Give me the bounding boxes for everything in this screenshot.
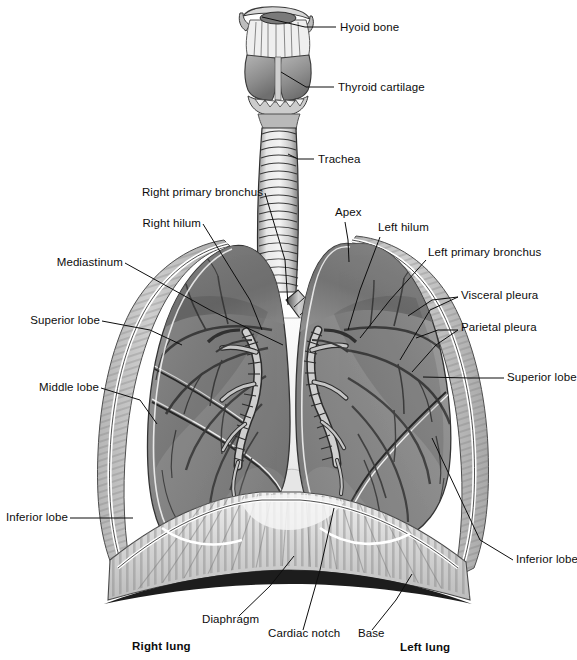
label-inferior-lobe-right: Inferior lobe (6, 512, 68, 524)
label-visceral-pleura: Visceral pleura (461, 290, 538, 302)
label-apex: Apex (335, 207, 362, 219)
label-right-hilum: Right hilum (142, 218, 201, 230)
label-inferior-lobe-left: Inferior lobe (516, 554, 577, 566)
label-thyroid-cartilage: Thyroid cartilage (338, 82, 425, 94)
label-left-hilum: Left hilum (378, 222, 429, 234)
label-cardiac-notch: Cardiac notch (268, 628, 340, 640)
label-right-primary-bronchus: Right primary bronchus (142, 187, 263, 199)
label-middle-lobe: Middle lobe (39, 382, 99, 394)
label-parietal-pleura: Parietal pleura (461, 322, 537, 334)
label-hyoid-bone: Hyoid bone (340, 22, 399, 34)
label-mediastinum: Mediastinum (57, 257, 123, 269)
label-left-primary-bronchus: Left primary bronchus (428, 247, 541, 259)
label-left-lung: Left lung (400, 642, 450, 654)
label-base: Base (358, 628, 385, 640)
label-diaphragm: Diaphragm (202, 614, 259, 626)
label-trachea: Trachea (318, 154, 360, 166)
respiratory-anatomy-figure: Hyoid boneThyroid cartilageTracheaRight … (0, 0, 577, 660)
label-superior-lobe-right: Superior lobe (30, 315, 100, 327)
label-right-lung: Right lung (132, 641, 191, 653)
label-superior-lobe-left: Superior lobe (507, 372, 577, 384)
